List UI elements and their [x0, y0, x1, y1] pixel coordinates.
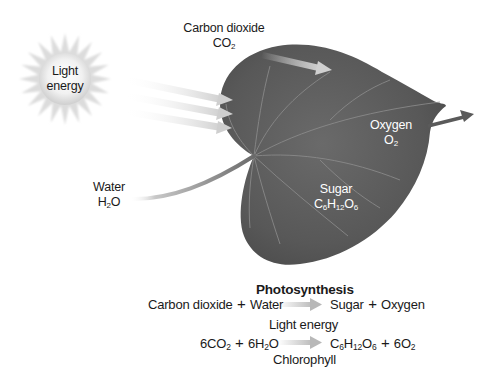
sugar-formula: C6H12O6: [300, 197, 372, 212]
carbon-dioxide-name: Carbon dioxide: [176, 21, 272, 36]
sugar-name: Sugar: [300, 182, 372, 197]
formula-subscript: 6: [354, 203, 358, 212]
chemical-equation-arrow: [278, 336, 322, 349]
light-label-line1: Light: [38, 64, 92, 79]
water-label: Water H2O: [84, 180, 134, 210]
oxygen-name: Oxygen: [363, 118, 419, 133]
product-oxygen: Oxygen: [381, 297, 425, 312]
formula-subscript: 12: [353, 342, 362, 352]
water-arrow: [130, 156, 254, 199]
formula-text: O: [384, 133, 394, 147]
photosynthesis-diagram: Light energy Carbon dioxide CO2 Oxygen O…: [0, 0, 494, 375]
water-formula: H2O: [84, 195, 134, 210]
formula-subscript: 6: [372, 342, 377, 352]
water-name: Water: [84, 180, 134, 195]
sugar-label: Sugar C6H12O6: [300, 182, 372, 212]
formula-subscript: 2: [231, 42, 235, 51]
formula-text: O: [111, 195, 121, 209]
word-equation-products: Sugar + Oxygen: [330, 296, 425, 313]
reactant-carbon-dioxide: Carbon dioxide: [148, 297, 233, 312]
oxygen-formula: O2: [363, 133, 419, 148]
light-label-line2: energy: [38, 79, 92, 94]
formula-text: H: [327, 197, 336, 211]
arrow-condition-chlorophyll: Chlorophyll: [273, 352, 336, 368]
formula-text: C: [314, 197, 323, 211]
reactant-water: Water: [250, 297, 283, 312]
oxygen-label: Oxygen O2: [363, 118, 419, 148]
word-equation-reactants: Carbon dioxide + Water: [148, 296, 283, 313]
carbon-dioxide-formula: CO2: [176, 36, 272, 51]
formula-text: O: [362, 336, 372, 351]
diagram-canvas: [0, 0, 494, 375]
formula-text: H: [344, 336, 353, 351]
plus-sign: +: [234, 334, 245, 351]
formula-text: O: [344, 197, 354, 211]
carbon-dioxide-label: Carbon dioxide CO2: [176, 21, 272, 51]
formula-text: O: [269, 336, 279, 351]
light-energy-label: Light energy: [38, 64, 92, 94]
product-sugar: Sugar: [330, 297, 364, 312]
chemical-equation-products: C6H12O6 + 6O2: [330, 335, 415, 352]
formula-text: C: [330, 336, 339, 351]
plus-sign: +: [380, 334, 391, 351]
formula-text: 6O: [394, 336, 411, 351]
chemical-equation-reactants: 6CO2 + 6H2O: [200, 335, 279, 352]
formula-subscript: 2: [226, 342, 231, 352]
formula-subscript: 2: [411, 342, 416, 352]
coefficient: 6: [200, 336, 207, 351]
light-arrows: [124, 76, 233, 134]
formula-text: CO: [207, 336, 226, 351]
formula-text: 6H: [248, 336, 264, 351]
plus-sign: +: [367, 295, 378, 312]
arrow-condition-light: Light energy: [269, 317, 338, 333]
word-equation-arrow: [278, 298, 322, 311]
formula-text: CO: [213, 36, 231, 50]
plus-sign: +: [236, 295, 247, 312]
formula-subscript: 2: [394, 139, 398, 148]
formula-text: H: [98, 195, 107, 209]
